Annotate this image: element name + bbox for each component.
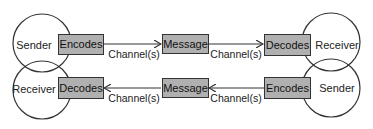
bottom-right-node-label: Sender [319,83,354,94]
bottom-decodes-box: Decodes [58,77,104,99]
top-channel-label-right: Channel(s) [210,49,261,60]
top-right-node-label: Receiver [315,40,358,51]
top-left-node-label: Sender [16,40,51,51]
bottom-encodes-box: Encodes [264,77,311,99]
diagram-canvas [0,0,373,129]
bottom-channel-label-right: Channel(s) [210,93,261,104]
top-channel-label-left: Channel(s) [108,49,159,60]
top-decodes-box: Decodes [264,34,311,56]
top-message-box: Message [162,34,209,54]
top-encodes-box: Encodes [58,34,104,55]
bottom-left-node-label: Receiver [12,84,55,95]
bottom-message-box: Message [162,78,209,98]
bottom-channel-label-left: Channel(s) [108,93,159,104]
